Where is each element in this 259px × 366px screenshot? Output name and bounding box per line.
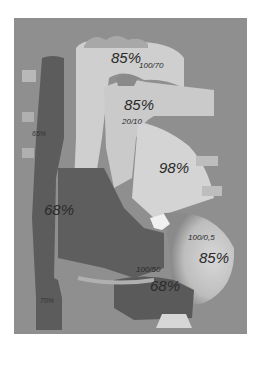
pulmonary-artery-pressure-label: 20/10 (122, 118, 142, 126)
heart-diagram: 85% 100/70 85% 20/10 65% 98% 68% 100/0,5… (14, 18, 247, 334)
bottom-vessel-shape (156, 314, 192, 328)
vessel-stub (22, 70, 36, 82)
inferior-vena-cava-saturation-label: 70% (40, 297, 54, 304)
vessel-stub (202, 186, 222, 196)
superior-vena-cava-saturation-label: 65% (32, 130, 46, 137)
right-ventricle-saturation-label: 68% (150, 278, 180, 293)
pulmonary-notch (116, 74, 138, 86)
pulmonary-artery-saturation-label: 85% (124, 97, 154, 112)
aorta-top-bumps (84, 36, 148, 48)
aorta-saturation-label: 85% (111, 50, 141, 65)
vessel-stub (22, 148, 34, 158)
vessel-stub (196, 156, 218, 166)
right-ventricle-pressure-label: 100/50 (136, 266, 160, 274)
left-ventricle-pressure-label: 100/0,5 (188, 234, 215, 242)
left-atrium-saturation-label: 98% (159, 160, 189, 175)
left-ventricle-saturation-label: 85% (199, 250, 229, 265)
right-atrium-saturation-label: 68% (44, 202, 74, 217)
aorta-pressure-label: 100/70 (139, 62, 163, 70)
vessel-stub (22, 112, 34, 122)
